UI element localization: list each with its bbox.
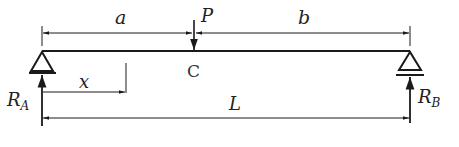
label-RA-sub: A xyxy=(20,99,30,113)
label-b: b xyxy=(298,6,310,28)
label-P: P xyxy=(200,5,214,26)
label-L: L xyxy=(228,93,241,114)
label-x: x xyxy=(79,71,89,92)
label-a: a xyxy=(115,6,126,28)
pin-support-A xyxy=(31,52,53,71)
label-RA-main: R xyxy=(6,89,21,110)
label-RB-main: R xyxy=(417,86,432,107)
roller-support-B xyxy=(399,52,421,70)
label-RB-sub: B xyxy=(431,96,441,110)
label-C: C xyxy=(187,61,200,81)
beam-diagram-canvas: a P b C x L RA RB xyxy=(0,0,459,147)
label-RB: RB xyxy=(417,86,441,110)
beam-diagram: a P b C x L RA RB xyxy=(0,0,459,147)
label-RA: RA xyxy=(6,89,30,113)
